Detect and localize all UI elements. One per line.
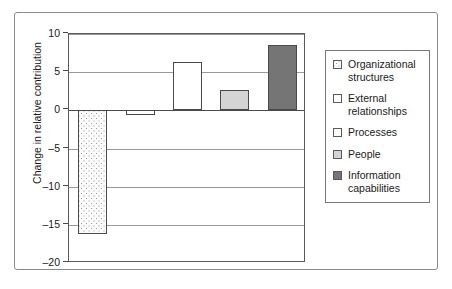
legend-item-label: People (348, 148, 381, 161)
bar-people (220, 90, 249, 110)
y-tick-label: –5 (48, 140, 60, 156)
y-tick-label: 0 (54, 101, 60, 117)
legend-swatch-lightgray (333, 150, 342, 159)
y-tick-label: 10 (48, 25, 60, 41)
gridline (69, 34, 304, 35)
legend-swatch-white (333, 128, 342, 137)
y-tick-label: –15 (42, 216, 60, 232)
legend-item: External relationships (333, 92, 423, 117)
bar-chart-figure: 1050–5–10–15–20 Change in relative contr… (0, 0, 452, 289)
legend-item-label: Processes (348, 126, 397, 139)
y-tick-label: –10 (42, 178, 60, 194)
legend-swatch-darkgray (333, 171, 342, 180)
y-tick-label: 5 (54, 63, 60, 79)
plot-area (68, 33, 305, 262)
legend-swatch-white (333, 94, 342, 103)
y-tick-label: –20 (42, 254, 60, 270)
legend-item: People (333, 148, 423, 161)
bar-organizational-structures (78, 110, 107, 234)
legend-item: Organizational structures (333, 58, 423, 83)
y-axis-title: Change in relative contribution (31, 3, 43, 223)
bar-processes (173, 62, 202, 110)
legend-item: Processes (333, 126, 423, 139)
bar-external-relationships (126, 110, 155, 115)
legend-item-label: External relationships (348, 92, 423, 117)
legend-swatch-dotted (333, 60, 342, 69)
legend-item: Information capabilities (333, 169, 423, 194)
legend-item-label: Information capabilities (348, 169, 423, 194)
legend-item-label: Organizational structures (348, 58, 423, 83)
bar-information-capabilities (268, 45, 297, 110)
chart-legend: Organizational structuresExternal relati… (325, 50, 430, 203)
